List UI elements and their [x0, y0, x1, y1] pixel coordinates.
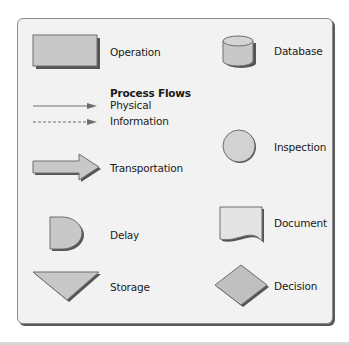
decision-diamond-icon — [215, 265, 271, 309]
operation-rect-icon — [33, 35, 103, 71]
physical-flow-label: Physical — [110, 99, 151, 111]
operation-label: Operation — [110, 46, 160, 58]
document-shape-icon — [220, 207, 266, 247]
inspection-label: Inspection — [274, 141, 326, 153]
storage-triangle-icon — [33, 272, 103, 304]
database-cylinder-icon — [223, 35, 259, 69]
legend-panel: Operation Database Process Flows Physica… — [17, 18, 333, 324]
process-flows-title: Process Flows — [110, 87, 191, 99]
inspection-circle-icon — [223, 130, 259, 166]
delay-label: Delay — [110, 229, 139, 241]
document-label: Document — [274, 217, 327, 229]
storage-label: Storage — [110, 281, 150, 293]
information-flow-arrow-icon — [33, 118, 99, 126]
delay-d-shape-icon — [50, 217, 90, 253]
physical-flow-arrow-icon — [33, 102, 99, 110]
transportation-label: Transportation — [110, 162, 183, 174]
decision-label: Decision — [274, 280, 317, 292]
information-flow-label: Information — [110, 115, 169, 127]
database-label: Database — [274, 45, 323, 57]
transportation-arrow-icon — [33, 153, 103, 183]
